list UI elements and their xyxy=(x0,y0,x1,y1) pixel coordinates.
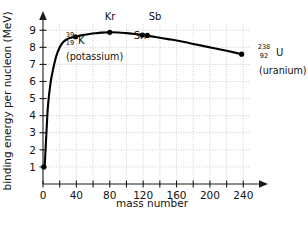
tin-label: Sn xyxy=(134,30,147,41)
y-axis-arrow xyxy=(39,11,47,20)
uranium-mass-number: 238 xyxy=(258,43,271,51)
uranium-marker xyxy=(239,52,244,57)
antimony-label: Sb xyxy=(149,11,162,22)
binding-energy-chart: 04080120160200240 123456789 mass number … xyxy=(0,0,308,228)
x-tick-label: 40 xyxy=(70,189,83,201)
x-tick-label: 240 xyxy=(233,189,253,201)
uranium-symbol: U xyxy=(276,47,283,58)
y-tick-label: 4 xyxy=(29,109,36,121)
potassium-atomic-number: 19 xyxy=(66,39,74,47)
y-tick-label: 6 xyxy=(29,75,36,87)
x-axis-title: mass number xyxy=(116,197,189,209)
potassium-mass-number: 39 xyxy=(66,31,74,39)
uranium-name: (uranium) xyxy=(259,65,307,76)
uranium-annotation: 238 92 U (uranium) xyxy=(258,43,307,76)
potassium-symbol: K xyxy=(78,35,85,46)
y-tick-label: 3 xyxy=(29,126,36,138)
y-axis-title: binding energy per nucleon (MeV) xyxy=(1,12,13,191)
y-tick-labels: 123456789 xyxy=(29,24,36,173)
x-tick-label: 0 xyxy=(40,189,47,201)
x-axis-arrow xyxy=(259,180,268,188)
potassium-name: (potassium) xyxy=(66,51,123,62)
y-tick-label: 8 xyxy=(29,41,36,53)
y-tick-label: 1 xyxy=(29,161,36,173)
x-tick-label: 200 xyxy=(200,189,220,201)
x-tick-label: 80 xyxy=(103,189,116,201)
y-tick-label: 5 xyxy=(29,92,36,104)
uranium-atomic-number: 92 xyxy=(260,52,268,60)
y-tick-label: 9 xyxy=(29,24,36,36)
origin-marker xyxy=(41,164,46,169)
y-tick-label: 7 xyxy=(29,58,36,70)
krypton-marker xyxy=(107,30,112,35)
krypton-label: Kr xyxy=(105,11,117,22)
y-tick-label: 2 xyxy=(29,144,36,156)
chart-canvas: 04080120160200240 123456789 mass number … xyxy=(0,0,308,228)
